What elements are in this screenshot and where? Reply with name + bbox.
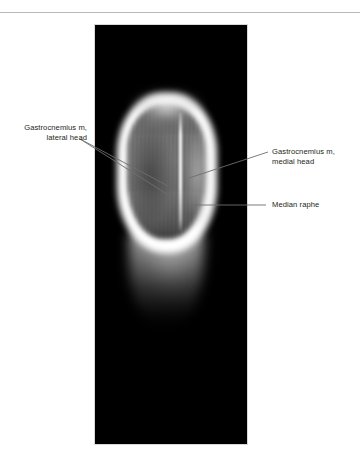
scan-image-panel (95, 25, 247, 444)
annotation-label-median-raphe-line-1: Median raphe (272, 200, 360, 210)
gastrocnemius-lateral-head-region (131, 111, 175, 233)
annotation-label-lateral-head-line-2: lateral head (5, 133, 87, 143)
gastrocnemius-medial-head-region (183, 117, 209, 229)
annotation-label-medial-head: Gastrocnemius m, medial head (272, 147, 360, 166)
annotation-label-lateral-head: Gastrocnemius m, lateral head (5, 123, 87, 142)
superior-compartment-highlight (129, 85, 205, 121)
annotation-label-medial-head-line-2: medial head (272, 157, 360, 167)
figure-page: Gastrocnemius m, lateral head Gastrocnem… (0, 0, 360, 456)
median-raphe-septum (179, 113, 182, 231)
annotation-label-median-raphe: Median raphe (272, 200, 360, 210)
annotation-label-medial-head-line-1: Gastrocnemius m, (272, 147, 360, 157)
page-top-rule (0, 12, 360, 13)
annotation-label-lateral-head-line-1: Gastrocnemius m, (5, 123, 87, 133)
